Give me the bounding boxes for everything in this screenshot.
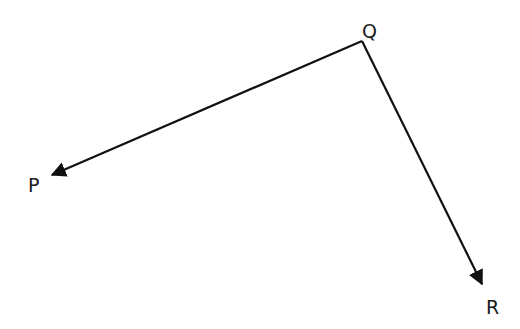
diagram-canvas: Q P R (0, 0, 520, 329)
label-p: P (28, 174, 39, 196)
label-q: Q (362, 20, 377, 42)
ray-qr (362, 41, 482, 284)
ray-qp (52, 41, 362, 175)
label-r: R (486, 296, 499, 318)
